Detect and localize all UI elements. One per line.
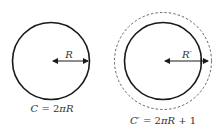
left-caption: C = 2πR bbox=[31, 103, 74, 114]
left-radius-label: R bbox=[64, 49, 73, 60]
right-caption: C′ = 2πR + 1 bbox=[130, 115, 196, 126]
right-figure: R′ C′ = 2πR + 1 bbox=[115, 13, 212, 127]
circumference-diagram: R C = 2πR R′ C′ = 2πR + 1 bbox=[0, 0, 218, 130]
right-radius-label: R′ bbox=[181, 49, 193, 60]
left-figure: R C = 2πR bbox=[13, 23, 90, 115]
